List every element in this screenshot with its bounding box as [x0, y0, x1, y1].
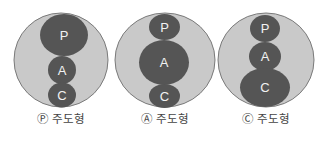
label-c-dominant: Ⓒ 주도형 — [216, 110, 316, 126]
ego-state-letter: A — [261, 49, 270, 64]
ego-state-letter: C — [260, 80, 269, 95]
ego-state-letter: P — [60, 28, 69, 43]
diagram-c-dominant: PAC — [218, 13, 314, 107]
label-p-dominant: Ⓟ 주도형 — [11, 110, 111, 126]
ego-state-letter: C — [57, 88, 66, 103]
ego-state-letter: P — [160, 20, 169, 35]
diagram-a-dominant: PAC — [115, 13, 215, 108]
ego-state-letter: A — [160, 55, 169, 70]
label-a-dominant: Ⓐ 주도형 — [115, 110, 215, 126]
ego-state-letter: C — [160, 89, 169, 104]
ego-state-letter: P — [261, 21, 270, 36]
ego-state-letter: A — [58, 63, 67, 78]
diagram-p-dominant: PAC — [14, 13, 108, 108]
